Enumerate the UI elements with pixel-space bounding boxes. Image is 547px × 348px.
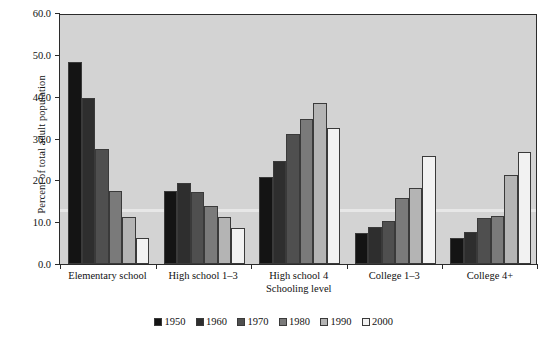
y-tick-label: 0.0 bbox=[38, 259, 51, 270]
legend-swatch-icon bbox=[237, 318, 245, 326]
y-tick-mark bbox=[55, 139, 60, 140]
bar bbox=[368, 227, 382, 264]
bar bbox=[164, 191, 178, 264]
x-tick-mark bbox=[347, 264, 348, 269]
y-tick-label: 50.0 bbox=[33, 49, 51, 60]
bar bbox=[464, 232, 478, 264]
legend-item[interactable]: 1980 bbox=[279, 316, 311, 327]
bar bbox=[327, 128, 341, 264]
legend-label: 1970 bbox=[248, 316, 269, 327]
bar bbox=[95, 149, 109, 264]
bar-chart-figure: Percent of total adult population 0.010.… bbox=[0, 0, 547, 348]
bar bbox=[109, 191, 123, 264]
y-tick-mark bbox=[55, 55, 60, 56]
bar bbox=[313, 103, 327, 264]
x-tick-mark bbox=[442, 264, 443, 269]
x-tick-label: High school 4 bbox=[269, 270, 328, 281]
x-tick-mark bbox=[60, 264, 61, 269]
bar bbox=[218, 217, 232, 264]
x-tick-mark bbox=[251, 264, 252, 269]
x-tick-label: College 1–3 bbox=[369, 270, 420, 281]
bar bbox=[82, 98, 96, 264]
legend-label: 1960 bbox=[206, 316, 227, 327]
bar bbox=[450, 238, 464, 264]
y-tick-label: 10.0 bbox=[33, 217, 51, 228]
legend-label: 1980 bbox=[289, 316, 310, 327]
legend-item[interactable]: 1970 bbox=[237, 316, 269, 327]
y-tick-mark bbox=[55, 180, 60, 181]
plot-area: 0.010.020.030.040.050.060.0 bbox=[59, 14, 537, 265]
bar bbox=[395, 198, 409, 264]
legend-swatch-icon bbox=[362, 318, 370, 326]
bar-group bbox=[259, 15, 340, 264]
bar bbox=[422, 156, 436, 264]
bar-group bbox=[68, 15, 149, 264]
x-tick-mark bbox=[537, 264, 538, 269]
x-tick-mark bbox=[156, 264, 157, 269]
bar bbox=[477, 218, 491, 264]
bar bbox=[382, 221, 396, 264]
bar bbox=[273, 161, 287, 264]
bar bbox=[68, 62, 82, 264]
bar bbox=[409, 188, 423, 264]
bar bbox=[300, 119, 314, 264]
y-tick-label: 30.0 bbox=[33, 133, 51, 144]
legend-swatch-icon bbox=[196, 318, 204, 326]
bar bbox=[504, 175, 518, 264]
legend-swatch-icon bbox=[154, 318, 162, 326]
chart-legend: 195019601970198019902000 bbox=[0, 316, 547, 327]
y-tick-label: 20.0 bbox=[33, 175, 51, 186]
bar bbox=[518, 152, 532, 264]
y-tick-mark bbox=[55, 13, 60, 14]
legend-item[interactable]: 1960 bbox=[196, 316, 228, 327]
bar-group bbox=[355, 15, 436, 264]
bar bbox=[204, 206, 218, 264]
y-tick-mark bbox=[55, 222, 60, 223]
bar-group bbox=[450, 15, 531, 264]
legend-item[interactable]: 1950 bbox=[154, 316, 186, 327]
bar bbox=[177, 183, 191, 264]
bar bbox=[259, 177, 273, 264]
bar bbox=[231, 228, 245, 264]
x-tick-label: High school 1–3 bbox=[168, 270, 237, 281]
x-tick-label: Elementary school bbox=[68, 270, 146, 281]
bar bbox=[491, 216, 505, 264]
bar bbox=[122, 217, 136, 264]
y-tick-mark bbox=[55, 97, 60, 98]
legend-swatch-icon bbox=[320, 318, 328, 326]
legend-item[interactable]: 1990 bbox=[320, 316, 352, 327]
bar-group bbox=[164, 15, 245, 264]
x-axis-title: Schooling level bbox=[266, 283, 332, 294]
legend-label: 1990 bbox=[331, 316, 352, 327]
legend-swatch-icon bbox=[279, 318, 287, 326]
y-tick-label: 60.0 bbox=[33, 8, 51, 19]
legend-label: 2000 bbox=[372, 316, 393, 327]
bar bbox=[191, 192, 205, 264]
bar bbox=[355, 233, 369, 264]
y-tick-label: 40.0 bbox=[33, 91, 51, 102]
x-tick-label: College 4+ bbox=[467, 270, 513, 281]
bar bbox=[136, 238, 150, 264]
bar bbox=[286, 134, 300, 264]
legend-item[interactable]: 2000 bbox=[362, 316, 394, 327]
legend-label: 1950 bbox=[165, 316, 186, 327]
